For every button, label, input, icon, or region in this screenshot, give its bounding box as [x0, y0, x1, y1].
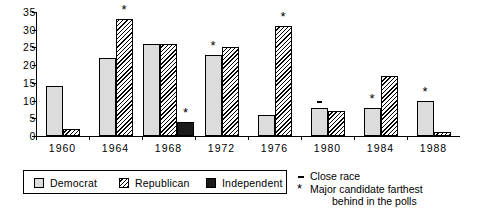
note-farthest-behind-text: Major candidate farthest — [310, 183, 423, 195]
poll-standings-bar-chart: 05101520253035 1960196419681972197619801… — [0, 0, 482, 215]
x-tick-mark — [354, 136, 355, 140]
asterisk-marker-icon: * — [364, 96, 381, 102]
legend-item-independent: Independent — [206, 176, 283, 190]
x-tick-label: 1960 — [33, 142, 93, 154]
bar-republican-1988 — [434, 132, 451, 136]
x-tick-label: 1968 — [139, 142, 199, 154]
y-tick-label-wrap: 35 — [0, 7, 36, 17]
asterisk-marker-icon: * — [205, 43, 222, 49]
y-tick-label-wrap: 25 — [0, 42, 36, 52]
legend-item-democrat: Democrat — [34, 176, 97, 190]
x-tick-mark — [142, 136, 143, 140]
close-race-marker-icon — [311, 101, 328, 103]
asterisk-marker-icon: * — [417, 89, 434, 95]
note-farthest-behind-cont: behind in the polls — [297, 195, 482, 208]
plot-area: 05101520253035 1960196419681972197619801… — [0, 0, 482, 160]
bar-republican-1972 — [222, 47, 239, 136]
democrat-swatch-icon — [34, 178, 44, 188]
x-tick-mark — [36, 136, 37, 140]
x-tick-mark — [407, 136, 408, 140]
y-tick-label-wrap: 10 — [0, 96, 36, 106]
bar-democrat-1980 — [311, 108, 328, 136]
y-tick-label-wrap: 30 — [0, 25, 36, 35]
asterisk-marker-icon: * — [275, 14, 292, 20]
bar-republican-1960 — [63, 129, 80, 136]
bar-democrat-1968 — [143, 44, 160, 136]
x-tick-label: 1988 — [404, 142, 464, 154]
y-tick-label-wrap: 0 — [0, 131, 36, 141]
bar-republican-1980 — [328, 111, 345, 136]
note-close-race-text: Close race — [310, 170, 360, 182]
asterisk-marker-icon: * — [177, 110, 194, 116]
bar-democrat-1988 — [417, 101, 434, 136]
bar-democrat-1960 — [46, 86, 63, 136]
note-farthest-behind: * Major candidate farthest — [297, 183, 482, 196]
y-tick-label-wrap: 15 — [0, 78, 36, 88]
x-tick-mark — [195, 136, 196, 140]
asterisk-icon: * — [297, 183, 308, 194]
bar-republican-1984 — [381, 76, 398, 136]
x-tick-label: 1976 — [245, 142, 305, 154]
bar-democrat-1984 — [364, 108, 381, 136]
x-tick-label: 1980 — [298, 142, 358, 154]
bar-independent-1968 — [177, 122, 194, 136]
y-tick-label: 35 — [10, 7, 36, 17]
y-tick-label: 25 — [10, 42, 36, 52]
y-tick-label-wrap: 20 — [0, 60, 36, 70]
x-tick-label: 1984 — [351, 142, 411, 154]
y-tick-label: 20 — [10, 60, 36, 70]
republican-swatch-icon — [119, 178, 129, 188]
x-tick-label: 1964 — [86, 142, 146, 154]
y-tick-label: 30 — [10, 25, 36, 35]
chart-notes: Close race * Major candidate farthest be… — [297, 170, 482, 208]
x-tick-mark — [301, 136, 302, 140]
y-tick-label: 10 — [10, 96, 36, 106]
y-tick-label: 15 — [10, 78, 36, 88]
note-close-race: Close race — [297, 170, 482, 183]
asterisk-marker-icon: * — [116, 7, 133, 13]
bar-democrat-1972 — [205, 55, 222, 136]
bar-democrat-1964 — [99, 58, 116, 136]
y-tick-label: 5 — [10, 113, 36, 123]
x-tick-mark — [89, 136, 90, 140]
legend-label-republican: Republican — [135, 177, 190, 189]
y-tick-label: 0 — [10, 131, 36, 141]
legend-item-republican: Republican — [119, 176, 190, 190]
bar-republican-1968 — [160, 44, 177, 136]
y-tick-label-wrap: 5 — [0, 113, 36, 123]
legend: Democrat Republican Independent — [23, 170, 287, 194]
legend-label-democrat: Democrat — [50, 177, 97, 189]
x-tick-label: 1972 — [192, 142, 252, 154]
bar-republican-1976 — [275, 26, 292, 136]
bar-democrat-1976 — [258, 115, 275, 136]
independent-swatch-icon — [206, 178, 216, 188]
legend-label-independent: Independent — [222, 177, 283, 189]
bar-republican-1964 — [116, 19, 133, 136]
x-tick-mark — [248, 136, 249, 140]
